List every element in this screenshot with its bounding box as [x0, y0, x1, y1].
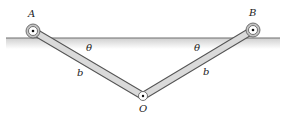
- label-A: A: [27, 8, 35, 19]
- label-theta-left: θ: [86, 42, 92, 53]
- label-theta-right: θ: [194, 42, 200, 53]
- pin-O-icon: [139, 92, 148, 101]
- label-b-left: b: [77, 67, 83, 78]
- linkage-diagram: A B O θ θ b b: [0, 0, 286, 120]
- pin-A-icon: [26, 24, 40, 38]
- label-O: O: [139, 103, 147, 114]
- label-b-right: b: [203, 66, 209, 77]
- label-B: B: [248, 7, 256, 18]
- pin-B-icon: [246, 23, 260, 37]
